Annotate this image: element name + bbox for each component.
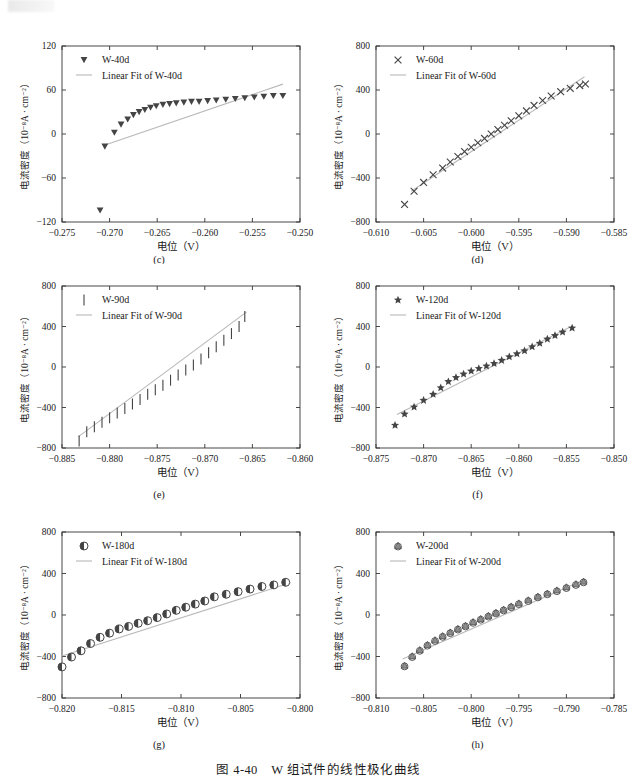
x-tick-label: −0.865: [239, 454, 266, 464]
panel-label: (g): [153, 739, 166, 751]
legend-label-series: W-90d: [102, 294, 129, 305]
legend-label-fit: Linear Fit of W-200d: [416, 556, 501, 567]
y-tick-label: 120: [42, 41, 57, 51]
legend: W-60dLinear Fit of W-60d: [390, 54, 496, 81]
data-point-star-icon: [528, 342, 536, 350]
legend: W-120dLinear Fit of W-120d: [390, 294, 501, 321]
data-point-half-circle-icon: [270, 581, 278, 589]
data-point-star-icon: [475, 364, 483, 372]
subplot-grid: −0.275−0.270−0.265−0.260−0.255−0.250−120…: [0, 14, 637, 744]
subplot-f: −0.875−0.870−0.865−0.860−0.855−0.850−800…: [318, 264, 637, 504]
x-tick-label: −0.870: [191, 454, 218, 464]
x-tick-label: −0.800: [458, 704, 485, 714]
y-tick-label: −400: [350, 652, 370, 662]
legend-label-fit: Linear Fit of W-180d: [102, 556, 187, 567]
subplot-g: −0.820−0.815−0.810−0.805−0.800−800−40004…: [0, 504, 318, 754]
data-point-triangle-down-icon: [270, 93, 277, 99]
y-tick-label: 400: [42, 322, 57, 332]
data-point-cross-icon: [523, 108, 530, 115]
y-tick-label: 800: [356, 527, 371, 537]
data-point-cross-icon: [494, 126, 501, 133]
data-point-half-circle-icon: [201, 597, 209, 605]
data-point-half-circle-icon: [163, 610, 171, 618]
subplot-h: −0.810−0.805−0.800−0.795−0.790−0.785−800…: [318, 504, 637, 754]
data-point-half-circle-icon: [258, 582, 266, 590]
data-point-star-icon: [444, 377, 452, 385]
x-tick-label: −0.250: [287, 228, 314, 238]
y-tick-label: 400: [356, 322, 371, 332]
x-axis-label: 电位（V）: [471, 716, 519, 728]
data-point-triangle-circle-icon: [563, 584, 570, 592]
data-point-cross-icon: [557, 88, 564, 95]
x-tick-label: −0.870: [410, 454, 437, 464]
data-series-W-40d: [97, 93, 287, 214]
data-point-triangle-down-icon: [260, 94, 267, 100]
y-tick-label: 0: [365, 362, 370, 372]
data-point-half-circle-icon: [58, 663, 66, 671]
data-point-triangle-down-icon: [160, 102, 167, 108]
y-tick-label: 800: [42, 281, 57, 291]
x-tick-label: −0.590: [553, 228, 580, 238]
x-tick-label: −0.275: [49, 228, 76, 238]
y-axis-label: 电流密度（10⁻⁸A · cm⁻²）: [19, 559, 30, 671]
figure-caption: 图 4-40 W 组试件的线性极化曲线: [0, 759, 637, 778]
legend-label-series: W-200d: [416, 540, 448, 551]
y-tick-label: 400: [356, 569, 371, 579]
data-point-half-circle-icon: [234, 588, 242, 596]
data-point-cross-icon: [395, 57, 402, 64]
figure-container: −0.275−0.270−0.265−0.260−0.255−0.250−120…: [0, 0, 637, 784]
data-point-star-icon: [410, 403, 418, 411]
data-point-half-circle-icon: [134, 619, 142, 627]
x-tick-label: −0.610: [363, 228, 390, 238]
x-tick-label: −0.255: [239, 228, 266, 238]
data-point-triangle-down-icon: [118, 122, 125, 128]
data-point-triangle-down-icon: [124, 116, 131, 122]
x-tick-label: −0.595: [505, 228, 532, 238]
data-point-half-circle-icon: [210, 593, 218, 601]
data-point-triangle-down-icon: [147, 105, 154, 111]
fit-line: [103, 84, 283, 146]
x-tick-label: −0.865: [458, 454, 485, 464]
x-tick-label: −0.810: [168, 704, 195, 714]
data-point-triangle-circle-icon: [462, 622, 469, 630]
data-point-star-icon: [394, 296, 402, 304]
y-tick-label: −120: [36, 217, 56, 227]
data-point-triangle-circle-icon: [447, 629, 454, 637]
y-tick-label: 60: [47, 85, 57, 95]
x-tick-label: −0.785: [601, 704, 628, 714]
data-point-triangle-down-icon: [222, 97, 229, 103]
data-point-triangle-down-icon: [173, 100, 180, 106]
x-tick-label: −0.805: [410, 704, 437, 714]
y-tick-label: 0: [365, 610, 370, 620]
x-tick-label: −0.805: [227, 704, 254, 714]
data-point-triangle-circle-icon: [424, 641, 431, 649]
x-tick-label: −0.585: [601, 228, 628, 238]
y-tick-label: −400: [350, 403, 370, 413]
legend: W-40dLinear Fit of W-40d: [76, 54, 182, 81]
data-point-half-circle-icon: [246, 585, 254, 593]
data-point-triangle-circle-icon: [500, 606, 507, 614]
y-tick-label: −800: [350, 443, 370, 453]
y-tick-label: 400: [42, 569, 57, 579]
y-tick-label: 0: [51, 129, 56, 139]
legend: W-180dLinear Fit of W-180d: [76, 540, 187, 567]
data-point-half-circle-icon: [96, 633, 104, 641]
data-point-half-circle-icon: [144, 617, 152, 625]
x-axis-label: 电位（V）: [157, 240, 205, 252]
x-tick-label: −0.265: [144, 228, 171, 238]
data-point-triangle-circle-icon: [534, 593, 541, 601]
legend-label-series: W-60d: [416, 54, 443, 65]
y-tick-label: −400: [350, 173, 370, 183]
y-tick-label: −800: [350, 693, 370, 703]
data-series-W-60d: [401, 81, 589, 208]
data-point-triangle-down-icon: [101, 144, 108, 150]
fit-line: [78, 312, 247, 437]
data-point-half-circle-icon: [172, 606, 180, 614]
data-point-cross-icon: [539, 97, 546, 104]
panel-label: (d): [471, 254, 484, 264]
data-point-cross-icon: [454, 153, 461, 160]
legend: W-90dLinear Fit of W-90d: [76, 294, 182, 321]
data-point-star-icon: [568, 324, 576, 332]
panel-label: (e): [153, 489, 165, 501]
data-point-cross-icon: [481, 135, 488, 142]
